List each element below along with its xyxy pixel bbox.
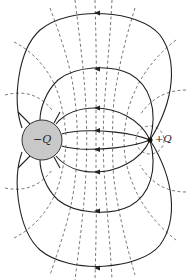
positive-charge [148, 138, 153, 143]
arrow-icon [94, 170, 100, 175]
negative-charge-label: −Q [33, 134, 51, 145]
arrow-icon [94, 147, 100, 152]
field-arrows [94, 11, 100, 271]
field-diagram: −Q +Q [0, 0, 186, 280]
positive-charge-label: +Q [155, 134, 172, 144]
arrow-icon [94, 106, 100, 111]
arrow-icon [94, 128, 100, 133]
